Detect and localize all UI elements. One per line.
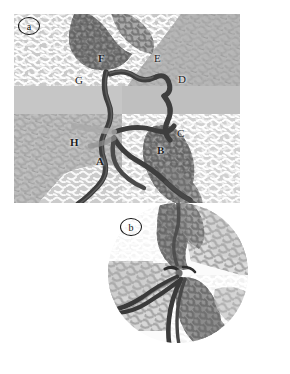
panel-a: F G E D C B H A [14, 14, 240, 203]
label-C: C [177, 128, 184, 139]
panel-tag-b-label: b [129, 222, 134, 233]
label-B: B [157, 145, 164, 156]
label-A: A [96, 156, 104, 167]
panel-tag-a: a [18, 17, 40, 35]
label-H: H [70, 137, 79, 148]
label-G: G [75, 75, 83, 86]
label-D: D [178, 74, 186, 85]
panel-tag-a-label: a [27, 21, 31, 32]
label-E: E [154, 53, 161, 64]
figure-canvas: F G E D C B H A [0, 0, 290, 374]
panel-tag-b: b [120, 218, 142, 236]
panel-a-texture-layer [14, 14, 240, 203]
label-F: F [98, 53, 105, 64]
